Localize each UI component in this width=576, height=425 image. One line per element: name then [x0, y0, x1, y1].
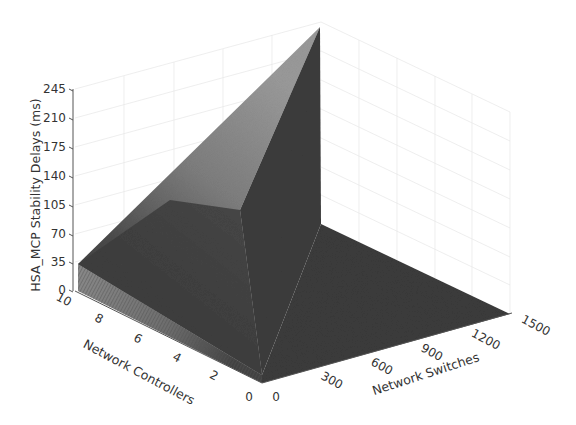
surface	[78, 27, 510, 383]
y-tick-label: 8	[92, 310, 105, 326]
z-tick-label: 245	[43, 82, 66, 96]
y-tick-label: 0	[245, 390, 253, 404]
y-tick-label: 4	[170, 349, 183, 365]
z-tick-label: 210	[43, 111, 66, 125]
y-tick-label: 6	[131, 330, 144, 346]
z-tick-label: 70	[51, 227, 66, 241]
x-tick-label: 1500	[519, 312, 553, 339]
x-tick-label: 600	[368, 355, 395, 378]
x-tick-label: 1200	[469, 326, 503, 353]
z-tick-label: 175	[43, 140, 66, 154]
y-axis-label: Network Controllers	[81, 336, 198, 408]
z-axis: 245 210 175 140 105 70 35 0 HSA_MCP Stab…	[28, 82, 73, 297]
y-tick-label: 10	[54, 290, 74, 310]
surface-chart: 245 210 175 140 105 70 35 0 HSA_MCP Stab…	[0, 0, 576, 425]
z-axis-label: HSA_MCP Stability Delays (ms)	[28, 98, 43, 291]
x-tick-label: 300	[318, 369, 345, 392]
x-tick-label: 0	[272, 390, 280, 404]
z-ticks	[69, 89, 73, 292]
z-tick-label: 105	[43, 198, 66, 212]
z-tick-label: 140	[43, 169, 66, 183]
y-tick-label: 2	[207, 367, 220, 383]
z-tick-label: 35	[51, 255, 66, 269]
